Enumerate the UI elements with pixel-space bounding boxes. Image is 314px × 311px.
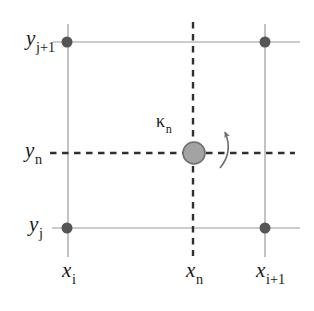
grid-node-top-left — [62, 37, 73, 48]
grid-node-bottom-right — [260, 223, 271, 234]
label-y-j-base: y — [29, 212, 38, 236]
label-y-j-plus-1-sub: j+1 — [36, 39, 55, 55]
label-x-i-plus-1-base: x — [256, 258, 265, 282]
label-y-j: yj — [29, 214, 42, 235]
label-x-i-base: x — [62, 258, 71, 282]
label-y-j-plus-1-base: y — [26, 26, 35, 50]
label-kappa-n-base: κ — [156, 111, 165, 131]
label-y-n: yn — [25, 140, 41, 161]
label-y-n-base: y — [25, 138, 34, 162]
label-y-j-sub: j — [39, 225, 43, 241]
label-x-i-plus-1: xi+1 — [256, 260, 284, 281]
label-kappa-n: κn — [156, 112, 171, 130]
grid-node-diagram: yj+1 yn yj xi xn xi+1 κn — [0, 0, 314, 311]
label-x-n-sub: n — [196, 271, 203, 287]
grid-node-bottom-left — [62, 223, 73, 234]
label-x-n: xn — [186, 260, 202, 281]
label-x-i: xi — [62, 260, 75, 281]
label-y-j-plus-1: yj+1 — [26, 28, 54, 49]
label-x-i-sub: i — [72, 271, 76, 287]
label-x-i-plus-1-sub: i+1 — [266, 271, 285, 287]
center-node-kappa — [183, 142, 205, 164]
label-x-n-base: x — [186, 258, 195, 282]
rotation-arrow-icon — [220, 132, 228, 168]
grid-node-top-right — [260, 37, 271, 48]
label-kappa-n-sub: n — [166, 122, 172, 136]
label-y-n-sub: n — [35, 151, 42, 167]
